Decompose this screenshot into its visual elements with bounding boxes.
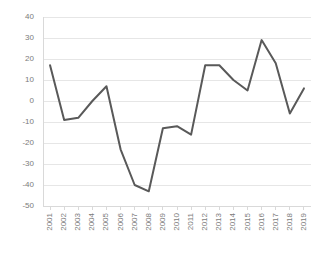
y-axis-tick-label: 20 xyxy=(8,55,34,63)
line-chart: 403020100-10-20-30-40-50 200120022003200… xyxy=(0,0,322,254)
x-axis-tick-label: 2005 xyxy=(102,213,110,231)
x-axis-tick-label: 2011 xyxy=(187,213,195,230)
y-axis-tick-label: -30 xyxy=(8,160,34,168)
y-axis-tick-label: -40 xyxy=(8,181,34,189)
x-axis-tick-label: 2012 xyxy=(201,213,209,231)
x-axis-tick-label: 2013 xyxy=(215,213,223,231)
y-axis-tick-label: -10 xyxy=(8,118,34,126)
x-axis-tick-label: 2007 xyxy=(131,213,139,231)
y-axis-tick-label: 40 xyxy=(8,13,34,21)
x-axis-tick-label: 2019 xyxy=(300,213,308,231)
y-axis-tick-label: -20 xyxy=(8,139,34,147)
y-axis-tick-label: 10 xyxy=(8,76,34,84)
y-axis-tick-label: -50 xyxy=(8,202,34,210)
x-axis-tick-label: 2002 xyxy=(60,213,68,231)
y-axis-tick-label: 30 xyxy=(8,34,34,42)
data-series xyxy=(50,40,304,191)
y-axis-tick-label: 0 xyxy=(8,97,34,105)
series-line xyxy=(50,40,304,191)
x-axis-tick-label: 2009 xyxy=(159,213,167,231)
x-axis-tick-label: 2008 xyxy=(145,213,153,231)
x-axis-tick-label: 2014 xyxy=(229,213,237,231)
x-axis-tick-label: 2001 xyxy=(46,213,54,231)
x-axis-tick-label: 2018 xyxy=(286,213,294,231)
x-axis-tick-label: 2010 xyxy=(173,213,181,231)
x-axis-tick-label: 2006 xyxy=(117,213,125,231)
x-axis-tick-label: 2004 xyxy=(88,213,96,231)
x-axis-tick-label: 2015 xyxy=(244,213,252,231)
x-axis-tick-label: 2017 xyxy=(272,213,280,231)
x-axis-tick-label: 2016 xyxy=(258,213,266,231)
x-axis-tick-label: 2003 xyxy=(74,213,82,231)
x-axis-ticks xyxy=(50,206,304,210)
